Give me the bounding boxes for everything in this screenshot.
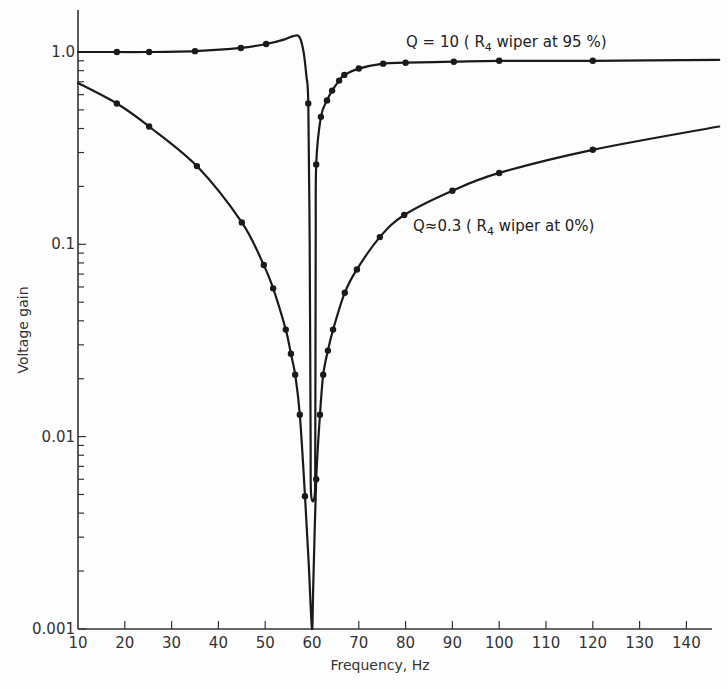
y-tick-label: 0.01 (42, 428, 75, 446)
data-point-marker (496, 58, 502, 64)
data-point-marker (317, 411, 323, 417)
data-point-marker (341, 72, 347, 78)
curves (78, 35, 719, 629)
notch-filter-chart: 102030405060708090100110120130140 0.0010… (0, 0, 728, 689)
data-point-marker (336, 77, 342, 83)
data-point-marker (590, 58, 596, 64)
data-point-marker (354, 266, 360, 272)
data-point-marker (114, 100, 120, 106)
data-point-marker (313, 476, 319, 482)
data-point-marker (238, 45, 244, 51)
data-point-marker (449, 187, 455, 193)
axes (78, 10, 712, 629)
data-markers (114, 41, 596, 500)
data-point-marker (283, 326, 289, 332)
curve-q10 (78, 35, 719, 501)
data-point-marker (356, 65, 362, 71)
x-tick-label: 80 (396, 634, 415, 652)
data-point-marker (297, 411, 303, 417)
x-tick-label: 130 (625, 634, 654, 652)
y-tick-label: 0.001 (32, 620, 75, 638)
data-point-marker (402, 59, 408, 65)
y-axis-title: Voltage gain (15, 286, 31, 373)
data-point-marker (146, 49, 152, 55)
x-axis-title: Frequency, Hz (330, 657, 429, 673)
annotation-q10: Q = 10 ( R4 wiper at 95 %) (406, 33, 607, 54)
data-point-marker (325, 347, 331, 353)
data-point-marker (496, 170, 502, 176)
x-tick-label: 60 (302, 634, 321, 652)
x-tick-label: 30 (162, 634, 181, 652)
curve-q03 (78, 83, 719, 629)
data-point-marker (270, 285, 276, 291)
series-annotations: Q = 10 ( R4 wiper at 95 %)Q≈0.3 ( R4 wip… (406, 33, 607, 238)
data-point-marker (288, 350, 294, 356)
x-tick-label: 40 (209, 634, 228, 652)
data-point-marker (263, 41, 269, 47)
data-point-marker (194, 163, 200, 169)
x-tick-label: 20 (115, 634, 134, 652)
data-point-marker (318, 114, 324, 120)
data-point-marker (377, 234, 383, 240)
data-point-marker (192, 48, 198, 54)
x-tick-label: 140 (672, 634, 701, 652)
data-point-marker (324, 97, 330, 103)
data-point-marker (302, 493, 308, 499)
x-tick-label: 90 (443, 634, 462, 652)
data-point-marker (329, 87, 335, 93)
data-point-marker (451, 59, 457, 65)
data-point-marker (305, 100, 311, 106)
data-point-marker (313, 161, 319, 167)
annotation-q03: Q≈0.3 ( R4 wiper at 0%) (413, 217, 594, 238)
data-point-marker (261, 262, 267, 268)
x-tick-label: 50 (256, 634, 275, 652)
data-point-marker (146, 123, 152, 129)
x-axis-ticks: 102030405060708090100110120130140 (68, 621, 700, 652)
x-tick-label: 110 (532, 634, 561, 652)
x-tick-label: 70 (349, 634, 368, 652)
data-point-marker (320, 371, 326, 377)
data-point-marker (239, 219, 245, 225)
data-point-marker (380, 60, 386, 66)
data-point-marker (114, 49, 120, 55)
data-point-marker (330, 326, 336, 332)
y-tick-label: 1.0 (51, 43, 75, 61)
data-point-marker (342, 290, 348, 296)
data-point-marker (401, 212, 407, 218)
x-tick-label: 100 (485, 634, 514, 652)
x-tick-label: 120 (578, 634, 607, 652)
data-point-marker (590, 147, 596, 153)
data-point-marker (292, 371, 298, 377)
y-tick-label: 0.1 (51, 235, 75, 253)
